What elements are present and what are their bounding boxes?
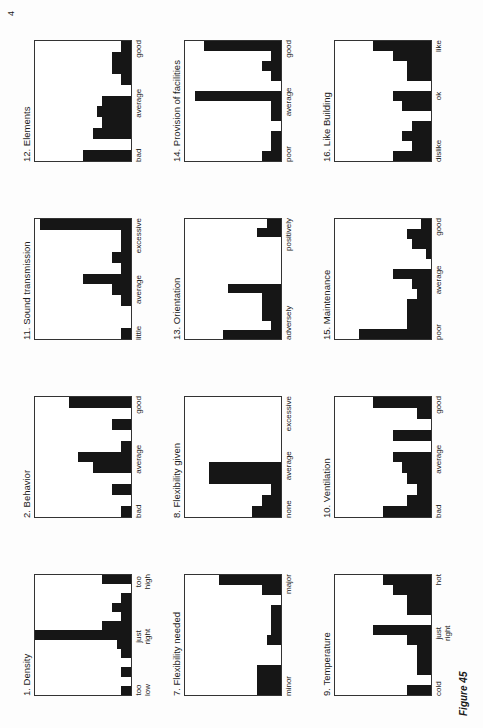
histogram-bar bbox=[373, 625, 431, 635]
histogram-title: 12. Elements bbox=[20, 40, 34, 162]
histogram: 16. Like Buildingdislikeoklike bbox=[320, 40, 443, 162]
histogram-bar bbox=[262, 495, 281, 506]
histogram-bar bbox=[121, 74, 131, 85]
histogram-bar bbox=[257, 675, 281, 685]
histogram-bar bbox=[407, 473, 431, 484]
x-axis-labels: badaveragegood bbox=[434, 396, 443, 518]
histogram-bar bbox=[69, 397, 131, 408]
x-axis-label: average bbox=[134, 89, 143, 118]
histogram-bar bbox=[393, 452, 431, 463]
histogram-bar bbox=[402, 131, 431, 141]
histogram-title: 2. Behavior bbox=[20, 396, 34, 518]
histogram-bar bbox=[359, 329, 431, 339]
histogram-bar bbox=[117, 640, 131, 649]
histogram-bar bbox=[112, 603, 131, 612]
histogram-bar bbox=[102, 117, 131, 128]
histogram-bar bbox=[262, 61, 281, 71]
histogram-bar bbox=[121, 41, 131, 52]
histogram-plot-area bbox=[334, 218, 432, 340]
histogram-bar bbox=[271, 141, 281, 151]
histogram-bar bbox=[121, 506, 131, 517]
x-axis-labels: pooraveragegood bbox=[284, 40, 293, 162]
histogram-bar bbox=[121, 263, 131, 274]
histogram-bar bbox=[102, 575, 131, 584]
histogram-bar bbox=[83, 274, 131, 285]
x-axis-labels: dislikeoklike bbox=[434, 40, 443, 162]
histogram-bar bbox=[121, 295, 131, 306]
histogram-plot-area bbox=[34, 574, 132, 696]
histogram-bar bbox=[373, 397, 431, 408]
histogram-bar bbox=[262, 585, 281, 595]
x-axis-label: good bbox=[134, 396, 143, 414]
histogram-bar bbox=[112, 419, 131, 430]
histogram-bar bbox=[102, 621, 131, 630]
x-axis-label: just right bbox=[134, 629, 152, 645]
x-axis-label: average bbox=[284, 451, 293, 480]
x-axis-label: average bbox=[134, 275, 143, 304]
histogram-bar bbox=[417, 655, 431, 665]
histogram: 7. Flexibility neededminormajor bbox=[170, 574, 293, 696]
histogram: 9. Temperaturecoldjust righthot bbox=[320, 574, 452, 696]
histogram-bar bbox=[93, 462, 131, 473]
histogram: 11. Sound transmissionlittleaverageexces… bbox=[20, 218, 143, 340]
x-axis-labels: pooraveragegood bbox=[434, 218, 443, 340]
x-axis-label: too high bbox=[134, 574, 152, 589]
x-axis-label: adversely bbox=[284, 306, 293, 340]
histogram-plot-area bbox=[184, 396, 282, 518]
histogram-bar bbox=[393, 51, 431, 61]
histogram-bar bbox=[393, 269, 431, 279]
histogram-bar bbox=[40, 219, 131, 230]
histogram: 10. Ventilationbadaveragegood bbox=[320, 396, 443, 518]
histogram-bar bbox=[271, 605, 281, 615]
histogram-bar bbox=[271, 625, 281, 635]
histogram-bar bbox=[35, 630, 131, 639]
x-axis-label: hot bbox=[434, 574, 452, 585]
x-axis-labels: badaveragegood bbox=[134, 396, 143, 518]
histogram-bar bbox=[412, 121, 431, 131]
histogram-bar bbox=[271, 51, 281, 61]
histogram-bar bbox=[407, 309, 431, 319]
histogram-bar bbox=[112, 484, 131, 495]
histogram-title: 16. Like Building bbox=[320, 40, 334, 162]
histogram-bar bbox=[271, 131, 281, 141]
histogram-bar bbox=[102, 96, 131, 107]
histogram-bar bbox=[412, 239, 431, 249]
x-axis-labels: adverselypositively bbox=[284, 218, 293, 340]
histogram-bar bbox=[257, 665, 281, 675]
x-axis-label: good bbox=[284, 40, 293, 58]
histogram-bar bbox=[407, 635, 431, 645]
histogram-bar bbox=[407, 595, 431, 605]
histogram-bar bbox=[407, 685, 431, 695]
figure-page: 1. Densitytoo lowjust righttoo high2. Be… bbox=[0, 0, 483, 728]
x-axis-label: good bbox=[134, 40, 143, 58]
x-axis-labels: minormajor bbox=[284, 574, 293, 696]
x-axis-label: minor bbox=[284, 676, 293, 696]
histogram-plot-area bbox=[34, 396, 132, 518]
x-axis-label: little bbox=[134, 326, 143, 340]
histogram-title: 9. Temperature bbox=[320, 574, 334, 696]
histogram-bar bbox=[393, 430, 431, 441]
histogram-bar bbox=[421, 219, 431, 229]
histogram-bar bbox=[267, 219, 281, 228]
histogram-bar bbox=[121, 241, 131, 252]
histogram-bar bbox=[223, 330, 281, 339]
histogram-plot-area bbox=[184, 218, 282, 340]
histogram-bar bbox=[121, 686, 131, 695]
histogram-title: 8. Flexibility given bbox=[170, 396, 184, 518]
x-axis-label: good bbox=[434, 396, 443, 414]
x-axis-label: ok bbox=[434, 92, 443, 100]
histogram-bar bbox=[426, 249, 431, 259]
histogram-bar bbox=[228, 284, 281, 293]
histogram-bar bbox=[417, 289, 431, 299]
histogram-bar bbox=[271, 71, 281, 81]
x-axis-label: bad bbox=[434, 505, 443, 518]
histogram-bar bbox=[407, 61, 431, 71]
x-axis-labels: noneaverageexcessive bbox=[284, 396, 293, 518]
histogram-plot-area bbox=[334, 396, 432, 518]
histogram-plot-area bbox=[34, 218, 132, 340]
histogram-grid: 1. Densitytoo lowjust righttoo high2. Be… bbox=[0, 0, 483, 728]
histogram-plot-area bbox=[334, 40, 432, 162]
histogram-bar bbox=[209, 462, 281, 473]
histogram-bar bbox=[412, 279, 431, 289]
histogram-bar bbox=[121, 328, 131, 339]
